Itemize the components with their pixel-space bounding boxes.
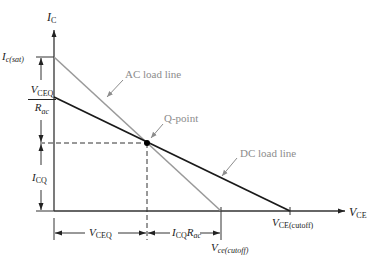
q-point-annotation: Q-point xyxy=(164,113,198,124)
dc-load-line-annotation: DC load line xyxy=(240,148,296,159)
vce-cutoff-ac-label: Vce(cutoff) xyxy=(211,242,248,255)
y-axis-label: IC xyxy=(47,11,56,25)
icq-rac-label: ICQRac xyxy=(172,227,201,240)
ac-load-line-annotation: AC load line xyxy=(125,69,181,80)
dc-load-line-pointer xyxy=(222,158,237,176)
x-axis-label: VCE xyxy=(349,206,367,220)
vceq-over-rac-label: VCEQ Rac xyxy=(28,83,56,116)
ic-sat-label: Ic(sat) xyxy=(2,51,24,64)
icq-label: ICQ xyxy=(32,172,47,185)
vceq-label: VCEQ xyxy=(89,227,112,240)
ac-load-line-pointer xyxy=(107,80,123,97)
ac-load-line xyxy=(54,57,221,211)
load-line-diagram xyxy=(0,0,380,260)
q-point-marker xyxy=(144,140,150,146)
vce-cutoff-dc-label: VCE(cutoff) xyxy=(272,217,313,230)
q-point-pointer xyxy=(151,124,163,138)
